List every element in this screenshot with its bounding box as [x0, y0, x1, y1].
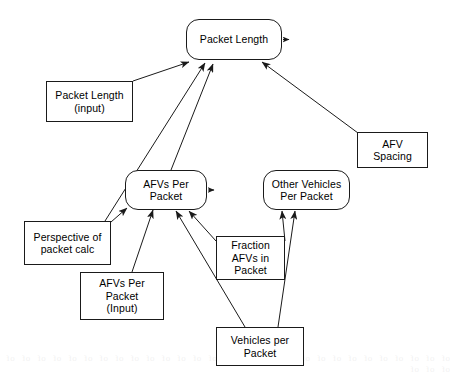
edge-afvs-per-packet-to-packet-length — [171, 64, 213, 170]
node-afv-spacing[interactable]: AFV Spacing — [357, 132, 428, 168]
edge-fraction-afvs-in-packet-to-afvs-per-packet — [189, 211, 216, 241]
node-label-fraction-afvs-in-packet: Fraction AFVs in Packet — [228, 239, 273, 277]
node-label-packet-length-input: Packet Length (input) — [52, 89, 126, 114]
edge-afv-spacing-to-packet-length — [262, 62, 358, 133]
node-vehicles-per-packet[interactable]: Vehicles per Packet — [216, 327, 304, 366]
node-fraction-afvs-in-packet[interactable]: Fraction AFVs in Packet — [216, 236, 285, 280]
node-other-vehicles-per-packet[interactable]: Other Vehicles Per Packet — [263, 170, 350, 210]
node-label-vehicles-per-packet: Vehicles per Packet — [228, 334, 292, 359]
edge-afvs-per-packet-input-to-afvs-per-packet — [132, 210, 153, 272]
node-afvs-per-packet-input[interactable]: AFVs Per Packet (Input) — [80, 272, 164, 320]
node-label-other-vehicles-per-packet: Other Vehicles Per Packet — [269, 178, 345, 203]
node-packet-length-input[interactable]: Packet Length (input) — [46, 81, 133, 122]
diagram-canvas: of of of of of of of of of of of of of o… — [0, 0, 450, 389]
node-packet-length[interactable]: Packet Length — [186, 19, 282, 60]
node-label-afvs-per-packet: AFVs Per Packet — [140, 178, 192, 203]
edge-perspective-of-packet-calc-to-afvs-per-packet — [111, 208, 127, 222]
node-label-perspective-of-packet-calc: Perspective of packet calc — [31, 231, 105, 256]
node-afvs-per-packet[interactable]: AFVs Per Packet — [125, 170, 207, 210]
node-label-afvs-per-packet-input: AFVs Per Packet (Input) — [96, 277, 148, 315]
node-perspective-of-packet-calc[interactable]: Perspective of packet calc — [24, 221, 111, 265]
edge-packet-length-input-to-packet-length — [133, 62, 189, 81]
node-label-packet-length: Packet Length — [197, 33, 271, 46]
node-label-afv-spacing: AFV Spacing — [370, 138, 415, 163]
